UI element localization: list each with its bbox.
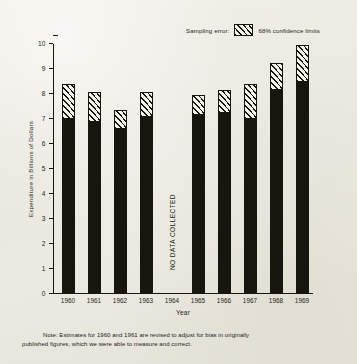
bar-group[interactable]	[218, 90, 231, 294]
y-axis-title-text: Expenditure in Billions of Dollars	[27, 121, 34, 217]
bar-confidence-interval	[192, 95, 205, 115]
y-axis-tick-label: 4	[42, 190, 46, 197]
bar-confidence-interval	[270, 63, 283, 91]
y-axis-tick-label: 8	[42, 90, 46, 97]
bar-group[interactable]	[244, 84, 257, 294]
bar-group[interactable]	[114, 110, 127, 294]
bar-group[interactable]	[270, 63, 283, 294]
legend-sampling-error-label: Sampling error:	[186, 27, 229, 34]
y-axis-top-cap	[53, 35, 58, 36]
diagonal-hatch-swatch-icon	[234, 24, 253, 36]
x-axis-tick-label: 1965	[185, 297, 211, 304]
x-axis-title: Year	[53, 309, 313, 316]
y-axis-tick-label: 10	[38, 40, 46, 47]
y-axis-tick: 6	[49, 143, 54, 144]
y-axis-tick: 2	[49, 243, 54, 244]
y-axis-tick-label: 9	[42, 65, 46, 72]
bar-solid-estimate	[296, 72, 309, 295]
chart-page: Sampling error: 68% confidence limits 01…	[0, 0, 357, 364]
bar-confidence-interval	[140, 92, 153, 117]
bar-group[interactable]	[140, 92, 153, 295]
bar-solid-estimate	[218, 105, 231, 294]
x-axis-tick-label: 1962	[107, 297, 133, 304]
y-axis-tick: 5	[49, 168, 54, 169]
y-axis-tick: 7	[49, 118, 54, 119]
y-axis-tick: 10	[49, 43, 54, 44]
x-axis-tick-label: 1968	[263, 297, 289, 304]
y-axis-tick-label: 7	[42, 115, 46, 122]
y-axis-title: Expenditure in Billions of Dollars	[27, 44, 34, 294]
bar-solid-estimate	[244, 108, 257, 294]
legend-confidence-label: 68% confidence limits	[258, 27, 319, 34]
y-axis-tick-label: 0	[42, 290, 46, 297]
bar-solid-estimate	[140, 105, 153, 294]
y-axis-tick-label: 3	[42, 215, 46, 222]
x-axis-tick-label: 1969	[289, 297, 315, 304]
bar-confidence-interval	[114, 110, 127, 129]
bar-confidence-interval	[62, 84, 75, 119]
bar-confidence-interval	[88, 92, 101, 122]
y-axis-tick: 4	[49, 193, 54, 194]
y-axis-tick: 1	[49, 268, 54, 269]
y-axis-line	[53, 44, 54, 294]
y-axis-tick: 3	[49, 218, 54, 219]
y-axis-tick-label: 1	[42, 265, 46, 272]
y-axis-tick: 0	[49, 293, 54, 294]
plot-area: 012345678910 NO DATA COLLECTED 196019611…	[53, 44, 313, 294]
bar-solid-estimate	[114, 123, 127, 294]
bar-group[interactable]	[88, 92, 101, 295]
bar-solid-estimate	[192, 108, 205, 294]
x-axis-tick-label: 1967	[237, 297, 263, 304]
bar-group[interactable]	[296, 45, 309, 294]
bar-confidence-interval	[296, 45, 309, 81]
y-axis-tick-label: 2	[42, 240, 46, 247]
chart-legend: Sampling error: 68% confidence limits	[186, 24, 320, 36]
bar-solid-estimate	[62, 108, 75, 294]
chart-footnote: Note: Estimates for 1960 and 1961 are re…	[22, 331, 334, 349]
y-axis-tick: 9	[49, 68, 54, 69]
no-data-annotation: NO DATA COLLECTED	[169, 194, 176, 270]
y-axis-tick-label: 5	[42, 165, 46, 172]
x-axis-tick-label: 1960	[55, 297, 81, 304]
footnote-line-2: published figures, which we were able to…	[22, 340, 334, 349]
bar-solid-estimate	[88, 115, 101, 294]
bar-solid-estimate	[270, 82, 283, 295]
x-axis-tick-label: 1963	[133, 297, 159, 304]
x-axis-tick-label: 1961	[81, 297, 107, 304]
y-axis-tick: 8	[49, 93, 54, 94]
bar-confidence-interval	[218, 90, 231, 113]
x-axis-tick-label: 1966	[211, 297, 237, 304]
y-axis-tick-label: 6	[42, 140, 46, 147]
bar-group[interactable]	[192, 95, 205, 294]
x-axis-tick-label: 1964	[159, 297, 185, 304]
footnote-line-1: Note: Estimates for 1960 and 1961 are re…	[22, 331, 334, 340]
bar-confidence-interval	[244, 84, 257, 119]
bar-group[interactable]	[62, 84, 75, 294]
